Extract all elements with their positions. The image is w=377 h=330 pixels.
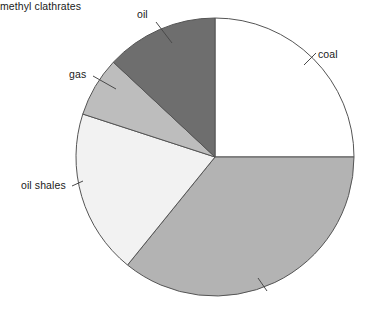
slice-label-oil-shales: oil shales [21,179,66,191]
slice-label-oil: oil [137,8,148,20]
slice-label-methyl-clathrates: methyl clathrates [0,0,81,12]
pie-slices-group [76,18,354,296]
pie-slice-coal[interactable] [215,18,354,157]
slice-label-gas: gas [69,68,86,80]
slice-label-coal: coal [318,48,338,60]
pie-chart: coal oil gas oil shales methyl clathrate… [0,0,377,330]
